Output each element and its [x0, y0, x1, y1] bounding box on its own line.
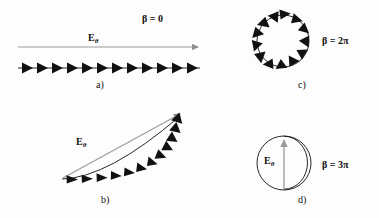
field-subscript-a: θ — [95, 37, 99, 45]
field-subscript-b: θ — [83, 141, 87, 149]
field-label-a: Eθ — [88, 33, 98, 45]
field-symbol-b: E — [76, 136, 83, 147]
beta-label-d: β = 3π — [322, 160, 348, 170]
field-subscript-d: θ — [271, 160, 275, 168]
caption-d: d) — [298, 195, 306, 205]
field-symbol-a: E — [88, 32, 95, 43]
caption-a: a) — [96, 80, 104, 90]
beta-label-a: β = 0 — [142, 14, 163, 24]
caption-b: b) — [101, 195, 109, 205]
field-symbol-d: E — [264, 155, 271, 166]
panel-c — [252, 10, 309, 69]
caption-c: c) — [298, 80, 306, 90]
field-label-d: Eθ — [264, 156, 274, 168]
beta-label-c: β = 2π — [322, 36, 348, 46]
panel-a — [18, 47, 200, 73]
phasor-diagram-figure — [0, 0, 379, 218]
field-label-b: Eθ — [76, 137, 86, 149]
